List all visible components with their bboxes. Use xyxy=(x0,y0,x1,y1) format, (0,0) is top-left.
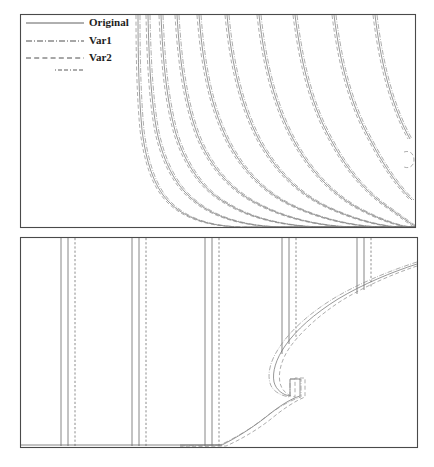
body-plan-svg: Original Var1 Var2 xyxy=(0,0,434,232)
legend-label-var1: Var1 xyxy=(89,34,112,46)
figure-root: Original Var1 Var2 xyxy=(0,0,434,467)
station-group-4 xyxy=(282,238,296,354)
station-group-1 xyxy=(61,238,75,446)
contour-group-7 xyxy=(257,15,415,227)
profile-plan-panel xyxy=(0,232,434,467)
station-group-3 xyxy=(205,238,219,446)
contour-group-8 xyxy=(293,15,415,227)
contour-group-9 xyxy=(332,15,414,200)
station-group-2 xyxy=(132,238,146,446)
stem-profile-var1 xyxy=(180,262,417,446)
legend-entry-var2: Var2 xyxy=(26,51,112,63)
contour-group-1 xyxy=(136,15,415,227)
legend: Original Var1 Var2 xyxy=(22,16,150,78)
stem-profile-original xyxy=(180,264,417,445)
profile-plan-svg xyxy=(0,232,434,467)
legend-entry-var1: Var1 xyxy=(26,34,112,46)
contour-group-10 xyxy=(373,15,412,139)
contour-group-6 xyxy=(225,15,415,227)
contour-group-4 xyxy=(175,15,415,227)
legend-label-original: Original xyxy=(89,16,129,28)
contour-group-3 xyxy=(159,15,415,227)
legend-entry-original: Original xyxy=(26,16,129,28)
contour-blob xyxy=(404,151,414,167)
profile-plan-content xyxy=(21,238,417,447)
legend-label-var2: Var2 xyxy=(89,51,112,63)
legend-box xyxy=(22,16,150,78)
body-plan-panel: Original Var1 Var2 xyxy=(0,0,434,232)
stem-profile-var2 xyxy=(180,266,417,447)
body-plan-frame xyxy=(21,15,416,228)
body-plan-curves xyxy=(136,15,415,227)
